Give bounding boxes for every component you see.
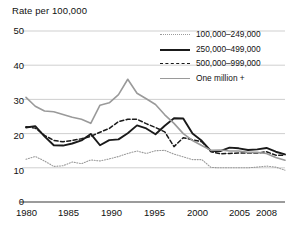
y-tick-label-0: 0 — [6, 196, 24, 207]
legend-label-2: 500,000–999,000 — [196, 58, 261, 68]
y-tick-label-40: 40 — [6, 60, 24, 71]
legend-item-500000-999000[interactable]: 500,000–999,000 — [160, 56, 261, 71]
legend-swatch-dashed-icon — [160, 58, 190, 68]
legend-item-100000-249000[interactable]: 100,000–249,000 — [160, 27, 261, 42]
legend-swatch-solid-gray-icon — [160, 73, 190, 83]
x-tick-label-1990: 1990 — [101, 207, 122, 218]
x-tick-label-2008: 2008 — [256, 207, 277, 218]
chart-legend: 100,000–249,000 250,000–499,000 500,000–… — [160, 27, 261, 85]
y-tick-label-30: 30 — [6, 95, 24, 106]
x-tick-label-1995: 1995 — [144, 207, 165, 218]
legend-swatch-dotted-icon — [160, 29, 190, 39]
y-tick-label-50: 50 — [6, 25, 24, 36]
chart-container: Rate per 100,000 50 40 30 20 10 0 1980 1… — [0, 0, 291, 227]
legend-label-3: One million + — [196, 73, 245, 83]
legend-label-0: 100,000–249,000 — [196, 29, 261, 39]
legend-label-1: 250,000–499,000 — [196, 44, 261, 54]
x-tick-label-2005: 2005 — [229, 207, 250, 218]
x-tick-label-2000: 2000 — [187, 207, 208, 218]
legend-item-250000-499000[interactable]: 250,000–499,000 — [160, 42, 261, 57]
series-paths — [26, 79, 285, 170]
x-tick-label-1980: 1980 — [16, 207, 37, 218]
x-tick-label-1985: 1985 — [58, 207, 79, 218]
y-tick-label-20: 20 — [6, 130, 24, 141]
legend-swatch-solid-black-icon — [160, 44, 190, 54]
legend-item-one-million-plus[interactable]: One million + — [160, 71, 261, 86]
series-line-0 — [26, 150, 285, 170]
series-line-1 — [26, 118, 285, 154]
y-tick-label-10: 10 — [6, 165, 24, 176]
series-line-3 — [26, 79, 285, 160]
